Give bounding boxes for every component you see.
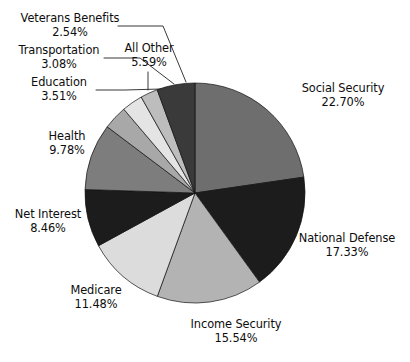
slice-label-social-security-value: 22.70% (288, 96, 398, 110)
slice-label-education-value: 3.51% (20, 90, 98, 104)
slice-label-transportation: Transportation 3.08% (12, 44, 106, 71)
slice-label-transportation-value: 3.08% (12, 58, 106, 72)
slice-label-health-value: 9.78% (32, 144, 102, 158)
slice-label-education: Education 3.51% (20, 76, 98, 103)
slice-label-income-security-value: 15.54% (178, 332, 294, 346)
slice-label-all-other-value: 5.59% (110, 56, 188, 70)
slice-label-education-name: Education (20, 76, 98, 90)
slice-label-transportation-name: Transportation (12, 44, 106, 58)
slice-label-medicare-name: Medicare (58, 284, 134, 298)
slice-label-social-security: Social Security 22.70% (288, 82, 398, 109)
slice-label-income-security-name: Income Security (178, 318, 294, 332)
slice-label-national-defense-value: 17.33% (288, 246, 406, 260)
slice-label-medicare: Medicare 11.48% (58, 284, 134, 311)
slice-label-national-defense-name: National Defense (288, 232, 406, 246)
slice-label-veterans-benefits: Veterans Benefits 2.54% (18, 12, 122, 39)
slice-label-social-security-name: Social Security (288, 82, 398, 96)
slice-label-medicare-value: 11.48% (58, 298, 134, 312)
slice-label-all-other-name: All Other (110, 42, 188, 56)
slice-label-health-name: Health (32, 130, 102, 144)
leader-line-education (96, 89, 161, 90)
slice-label-income-security: Income Security 15.54% (178, 318, 294, 345)
pie-slices-group (85, 83, 305, 303)
pie-chart: Veterans Benefits 2.54% Transportation 3… (0, 0, 410, 362)
slice-label-all-other: All Other 5.59% (110, 42, 188, 69)
slice-label-national-defense: National Defense 17.33% (288, 232, 406, 259)
slice-label-health: Health 9.78% (32, 130, 102, 157)
slice-label-veterans-benefits-name: Veterans Benefits (18, 12, 122, 26)
slice-label-net-interest: Net Interest 8.46% (6, 208, 90, 235)
slice-label-net-interest-name: Net Interest (6, 208, 90, 222)
slice-label-veterans-benefits-value: 2.54% (18, 26, 122, 40)
slice-label-net-interest-value: 8.46% (6, 222, 90, 236)
